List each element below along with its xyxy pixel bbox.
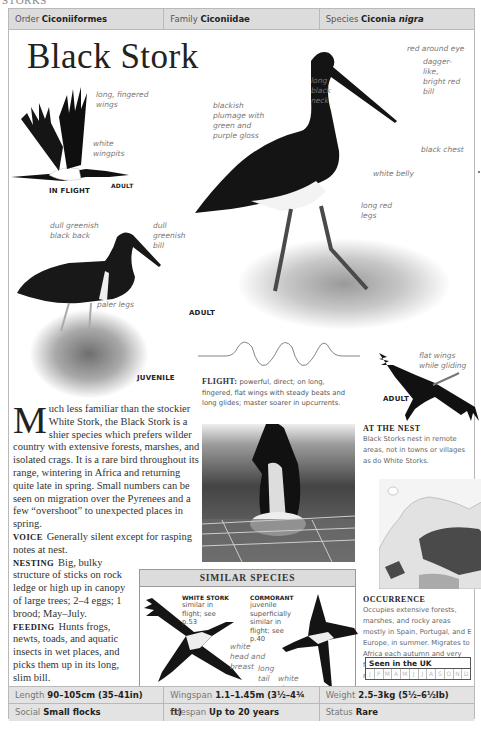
facts-row-1: Length90–105cm (35–41in) Wingspan1.1–1.4… — [9, 687, 474, 704]
month-sep: S — [436, 669, 445, 679]
month-jan: J — [366, 669, 375, 679]
lifespan-value: Up to 20 years — [209, 707, 279, 717]
feeding-section: FEEDINGHunts frogs, newts, toads, and aq… — [13, 621, 133, 685]
field-guide-page: Order Ciconiiformes Family Ciconiidae Sp… — [8, 8, 475, 719]
cormorant-note: juvenile superficially similar in flight… — [250, 601, 300, 644]
label-dull-greenish-bill: dull greenish bill — [153, 221, 197, 251]
running-head: STORKS — [2, 0, 47, 6]
nesting-section: NESTINGBig, bulky structure of sticks on… — [13, 557, 133, 621]
facts-table: Length90–105cm (35–41in) Wingspan1.1–1.4… — [9, 686, 474, 721]
label-white-belly: white belly — [373, 169, 423, 179]
nesting-heading: NESTING — [13, 558, 54, 568]
label-paler-legs: paler legs — [97, 300, 137, 310]
cormorant-name: CORMORANT — [250, 594, 294, 601]
weight-value: 2.5–3kg (5½–6½lb) — [358, 690, 448, 700]
social-value: Small flocks — [43, 707, 100, 717]
label-long-tail: long tail — [258, 664, 278, 684]
month-oct: O — [445, 669, 454, 679]
month-jul: J — [419, 669, 428, 679]
month-may: M — [401, 669, 410, 679]
label-long-red-legs: long red legs — [361, 201, 395, 221]
fact-length: Length90–105cm (35–41in) — [9, 687, 164, 703]
white-stork-name: WHITE STORK — [182, 594, 229, 601]
flight-heading: FLIGHT: — [202, 377, 237, 386]
label-long-black-neck: long black neck — [311, 76, 349, 106]
month-nov: N — [454, 669, 463, 679]
taxonomy-order: Order Ciconiiformes — [9, 9, 164, 29]
status-label: Status — [326, 707, 353, 717]
species-label: Species — [326, 14, 359, 24]
weight-label: Weight — [326, 690, 356, 700]
label-dagger-bill: dagger-like, bright red bill — [423, 57, 461, 97]
taxonomy-bar: Order Ciconiiformes Family Ciconiidae Sp… — [9, 9, 474, 30]
taxonomy-species: Species Ciconia nigra — [320, 9, 474, 29]
label-dull-greenish-back: dull greenish black back — [50, 221, 105, 241]
label-flat-wings-gliding: flat wings while gliding — [419, 351, 474, 371]
nest-photo-image — [202, 424, 355, 562]
length-value: 90–105cm (35–41in) — [47, 690, 142, 700]
species-epithet: nigra — [399, 14, 424, 24]
month-apr: A — [392, 669, 401, 679]
white-stork-note: similar in flight; see p.53 — [182, 601, 230, 627]
order-label: Order — [15, 14, 39, 24]
month-jun: J — [410, 669, 419, 679]
month-mar: M — [384, 669, 393, 679]
month-feb: F — [375, 669, 384, 679]
seen-in-uk-calendar: Seen in the UK J F M A M J J A S O N D — [365, 657, 471, 680]
flight-pattern-wave-icon — [198, 339, 360, 369]
adult-caption: ADULT — [189, 309, 215, 317]
in-flight-caption: IN FLIGHT — [49, 187, 90, 195]
facts-row-2: SocialSmall flocks LifespanUp to 20 year… — [9, 704, 474, 721]
month-row: J F M A M J J A S O N D — [366, 669, 470, 679]
occurrence-heading: OCCURRENCE — [363, 595, 425, 604]
fact-status: StatusRare — [320, 704, 474, 721]
length-label: Length — [15, 690, 44, 700]
juvenile-caption: JUVENILE — [137, 374, 175, 382]
fact-weight: Weight2.5–3kg (5½–6½lb) — [320, 687, 474, 703]
species-value: Ciconia nigra — [361, 14, 424, 24]
label-blackish-plumage: blackish plumage with green and purple g… — [213, 101, 277, 141]
family-value: Ciconiidae — [200, 14, 250, 24]
page-edge-marker — [478, 171, 480, 173]
at-the-nest-text: Black Storks nest in remote areas, not i… — [363, 434, 473, 467]
range-map — [379, 479, 481, 589]
flight-description: FLIGHT: powerful, direct; on long, finge… — [202, 377, 352, 409]
taxonomy-family: Family Ciconiidae — [164, 9, 319, 29]
voice-heading: VOICE — [13, 532, 43, 542]
in-flight-age-caption: ADULT — [111, 182, 133, 189]
at-the-nest-heading: AT THE NEST — [363, 424, 421, 433]
drop-cap: M — [13, 405, 47, 435]
gliding-adult-caption: ADULT — [383, 395, 409, 403]
nest-photo — [202, 424, 355, 562]
order-value: Ciconiiformes — [42, 14, 107, 24]
label-red-around-eye: red around eye — [407, 44, 477, 54]
fact-wingspan: Wingspan1.1–1.45m (3½–4¾ ft) — [164, 687, 319, 703]
status-value: Rare — [356, 707, 378, 717]
similar-species-box: SIMILAR SPECIES WHITE STORK similar in f… — [139, 569, 356, 690]
similar-species-heading: SIMILAR SPECIES — [140, 570, 355, 587]
social-label: Social — [15, 707, 40, 717]
page-title: Black Stork — [27, 37, 199, 77]
label-white-wingpits: white wingpits — [93, 139, 133, 159]
species-genus: Ciconia — [361, 14, 396, 24]
fact-lifespan: LifespanUp to 20 years — [164, 704, 319, 721]
wingspan-label: Wingspan — [170, 690, 212, 700]
fact-social: SocialSmall flocks — [9, 704, 164, 721]
voice-section: VOICEGenerally silent except for rasping… — [13, 531, 201, 557]
label-fingered-wings: long, fingered wings — [96, 90, 156, 110]
lifespan-label: Lifespan — [170, 707, 206, 717]
family-label: Family — [170, 14, 197, 24]
feeding-heading: FEEDING — [13, 622, 55, 632]
month-dec: D — [462, 669, 470, 679]
label-black-chest: black chest — [421, 145, 471, 155]
seen-in-uk-title: Seen in the UK — [366, 658, 470, 669]
month-aug: A — [427, 669, 436, 679]
